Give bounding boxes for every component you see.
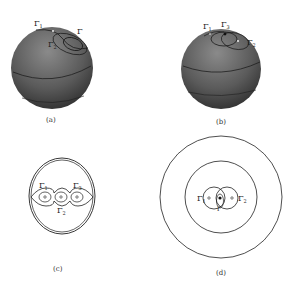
label-gamma2-c: Γ2 [57, 206, 66, 216]
circle-gamma1-d [203, 187, 225, 209]
point-side-b [237, 40, 239, 42]
point-center-d [218, 196, 221, 199]
caption-b: (b) [216, 118, 226, 126]
point-right-c [76, 196, 78, 198]
panel-a: Γ1 Γ2 Γ (a) [11, 19, 93, 124]
caption-d: (d) [216, 269, 226, 277]
panel-c: Γ1 Γ3 Γ2 (c) [29, 158, 95, 273]
label-gamma2-d: Γ2 [238, 194, 247, 204]
caption-a: (a) [46, 116, 56, 124]
lobe-right-c [71, 192, 83, 202]
point-gamma1-d [208, 197, 210, 199]
figure-canvas: Γ1 Γ2 Γ (a) Γ1 Γ3 Γ2 (b) Γ1 Γ3 Γ2 (c) [0, 0, 293, 283]
point-a [52, 30, 54, 32]
caption-c: (c) [53, 265, 63, 273]
point-left-c [44, 196, 46, 198]
panel-d: Γ1 Γ2 Γ (d) [160, 136, 282, 277]
label-gamma3-c: Γ3 [73, 181, 82, 191]
lobe-left-c [39, 192, 51, 202]
lobe-mid-c [55, 192, 67, 202]
label-gamma2-b: Γ2 [247, 38, 256, 48]
point-gamma2-d [231, 197, 233, 199]
label-gamma3-b: Γ3 [221, 20, 230, 30]
point-center-b [224, 33, 227, 36]
label-gamma1-c: Γ1 [39, 181, 48, 191]
point-left-b [209, 33, 211, 35]
point-mid-c [60, 196, 62, 198]
label-gamma1-b: Γ1 [203, 22, 212, 32]
label-gamma3-a: Γ [77, 27, 83, 36]
label-gamma3-d: Γ [217, 205, 221, 212]
label-gamma1-d: Γ1 [197, 194, 206, 204]
panel-b: Γ1 Γ3 Γ2 (b) [181, 20, 261, 126]
label-gamma1-a: Γ1 [34, 19, 43, 29]
